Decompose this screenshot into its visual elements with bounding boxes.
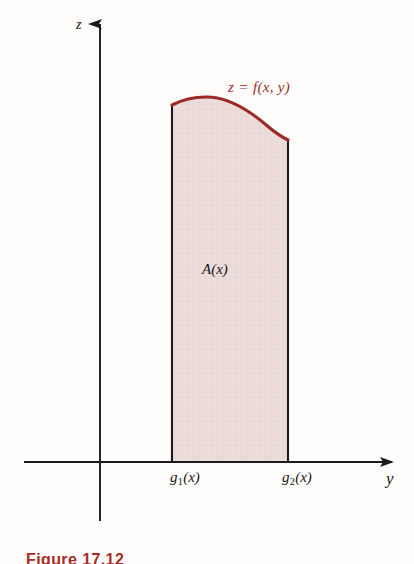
surface-equation-label: z=f(x, y) (228, 80, 290, 95)
area-label: A(x) (202, 262, 228, 277)
area-label-variable: x (216, 261, 223, 277)
lower-bound-function: g (170, 469, 178, 485)
area-region-fill (172, 97, 288, 462)
figure-container: z y z=f(x, y) A(x) g1(x) g2(x) Figure 17… (0, 0, 414, 564)
diagram-canvas (0, 0, 414, 564)
y-axis-label: y (386, 470, 394, 487)
upper-bound-argument: (x) (295, 469, 312, 485)
figure-caption: Figure 17.12 (26, 551, 124, 564)
area-label-prefix: A( (202, 261, 216, 277)
lower-bound-argument: (x) (183, 469, 200, 485)
lower-bound-label: g1(x) (170, 470, 200, 487)
surface-equation-operator: = (234, 79, 253, 95)
surface-equation-arguments: (x, y) (257, 79, 290, 95)
area-label-suffix: ) (223, 261, 228, 277)
z-axis-label: z (76, 18, 81, 32)
upper-bound-label: g2(x) (282, 470, 312, 487)
upper-bound-function: g (282, 469, 290, 485)
